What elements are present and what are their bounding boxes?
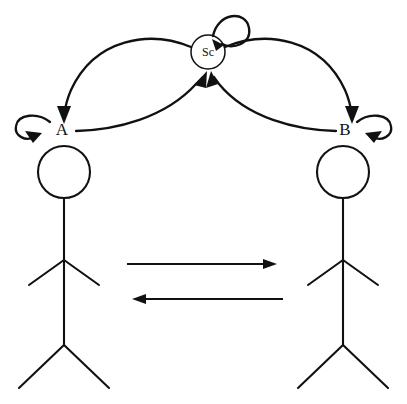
agent-a-label: A [56,120,69,139]
agent-b-node[interactable]: B [339,120,350,139]
agent-interaction-diagram: Sc A [0,0,407,404]
stick-figure-right-leg-right [343,345,388,388]
shared-context-node[interactable]: Sc [191,35,225,69]
edge-agent-a-to-shared-context-path [76,77,203,131]
message-arrow-leftward [132,294,283,304]
stick-figure-left-leg-left [19,345,64,388]
message-arrow-rightward-arrowhead [263,259,277,269]
edge-agent-b-to-shared-context [206,71,336,131]
agent-a-self-loop-arrowhead [25,131,42,143]
edge-sc-to-agent-b-path [225,39,352,116]
stick-figure-left-leg-right [64,345,109,388]
agent-b-self-loop-arrowhead [365,131,382,143]
agent-b-self-loop [357,116,391,143]
diagram-canvas: Sc A [0,0,407,404]
shared-context-label: Sc [202,45,214,59]
message-arrow-leftward-arrowhead [132,294,146,304]
stick-figure-right-arm-left [308,260,343,285]
stick-figure-left-arm-right [64,260,99,285]
stick-figure-right-leg-left [298,345,343,388]
edge-agent-a-to-shared-context-arrowhead [194,71,207,88]
edge-sc-to-agent-b [225,39,359,124]
edge-agent-a-to-shared-context [76,71,207,131]
stick-figure-right-head [317,146,369,198]
message-arrow-rightward [127,259,277,269]
agent-b-label: B [339,120,350,139]
stick-figure-left[interactable] [19,146,109,388]
agent-a-self-loop [16,116,50,143]
stick-figure-left-head [38,146,90,198]
stick-figure-right-arm-right [343,260,378,285]
agent-a-node[interactable]: A [56,120,69,139]
edge-agent-b-to-shared-context-path [214,77,336,131]
stick-figure-left-arm-left [29,260,64,285]
stick-figure-right[interactable] [298,146,388,388]
edge-sc-to-agent-a [57,39,191,124]
